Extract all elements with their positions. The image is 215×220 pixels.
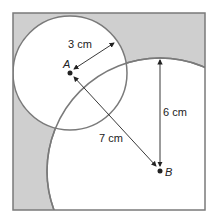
point-b-label: B: [165, 166, 172, 178]
point-a-dot: [68, 71, 73, 76]
geometry-diagram: A B 3 cm 6 cm 7 cm: [0, 0, 215, 220]
point-b-dot: [158, 169, 163, 174]
large-radius-label: 6 cm: [163, 106, 187, 118]
distance-label: 7 cm: [99, 132, 123, 144]
small-radius-label: 3 cm: [68, 38, 92, 50]
point-a-label: A: [62, 58, 70, 70]
